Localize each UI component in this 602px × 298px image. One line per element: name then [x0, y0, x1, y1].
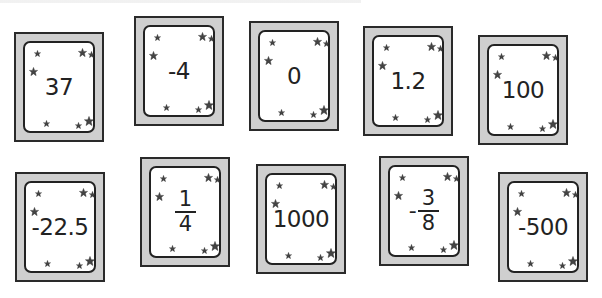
star-icon: [276, 182, 283, 189]
card-panel: -22.5: [24, 181, 96, 273]
star-icon: [394, 191, 403, 200]
number-card-5[interactable]: 100: [478, 35, 568, 145]
star-icon: [204, 100, 214, 110]
fraction-numerator: 1: [175, 189, 196, 213]
star-icon: [437, 45, 444, 52]
star-icon: [383, 44, 390, 51]
number-card-1[interactable]: 37: [14, 32, 104, 142]
star-icon: [160, 175, 167, 182]
card-value: -4: [145, 60, 213, 83]
star-icon: [559, 262, 566, 269]
star-icon: [326, 248, 336, 258]
star-icon: [572, 191, 579, 198]
star-icon: [84, 116, 94, 126]
fraction: 1 4: [175, 189, 196, 235]
star-icon: [330, 183, 337, 190]
fraction-sign: -: [409, 200, 417, 222]
star-icon: [88, 51, 95, 58]
star-icon: [285, 252, 292, 259]
star-icon: [562, 188, 571, 197]
card-panel: 1.2: [372, 35, 444, 127]
star-icon: [198, 32, 207, 41]
star-icon: [552, 54, 559, 61]
fraction-numerator: 3: [418, 188, 439, 212]
star-icon: [507, 123, 514, 130]
card-panel: -4: [143, 25, 215, 117]
card-value: -500: [509, 216, 577, 239]
star-icon: [29, 67, 38, 76]
star-icon: [30, 207, 39, 216]
cropped-header-strip: [0, 0, 602, 3]
card-value: 37: [25, 76, 93, 99]
star-icon: [539, 125, 546, 132]
star-icon: [149, 51, 158, 60]
star-icon: [399, 174, 406, 181]
star-icon: [433, 110, 443, 120]
star-icon: [513, 207, 522, 216]
card-panel: 100: [487, 44, 559, 136]
card-panel: - 3 8: [388, 165, 460, 257]
star-icon: [35, 190, 42, 197]
star-icon: [154, 34, 161, 41]
star-icon: [317, 254, 324, 261]
star-icon: [278, 109, 285, 116]
star-icon: [201, 247, 208, 254]
star-icon: [44, 260, 51, 267]
star-icon: [79, 188, 88, 197]
fraction: 3 8: [418, 188, 439, 234]
number-card-2[interactable]: -4: [134, 16, 224, 126]
star-icon: [75, 122, 82, 129]
star-icon: [210, 241, 220, 251]
number-card-6[interactable]: -22.5: [15, 172, 105, 282]
star-icon: [449, 240, 459, 250]
star-icon: [169, 245, 176, 252]
star-icon: [323, 40, 330, 47]
card-panel: 37: [23, 41, 95, 133]
star-icon: [78, 48, 87, 57]
star-icon: [319, 105, 329, 115]
number-card-4[interactable]: 1.2: [363, 26, 453, 136]
fraction-denominator: 8: [422, 212, 435, 234]
star-icon: [392, 114, 399, 121]
star-icon: [440, 246, 447, 253]
star-icon: [163, 104, 170, 111]
star-icon: [85, 256, 95, 266]
star-icon: [264, 56, 273, 65]
star-icon: [453, 175, 460, 182]
star-icon: [34, 50, 41, 57]
number-card-7[interactable]: 1 4: [140, 157, 230, 267]
star-icon: [43, 120, 50, 127]
star-icon: [204, 173, 213, 182]
star-icon: [493, 70, 502, 79]
star-icon: [269, 39, 276, 46]
star-icon: [378, 61, 387, 70]
star-icon: [427, 42, 436, 51]
star-icon: [542, 51, 551, 60]
star-icon: [498, 53, 505, 60]
star-icon: [76, 262, 83, 269]
star-icon: [271, 199, 280, 208]
card-panel: 0: [258, 30, 330, 122]
star-icon: [527, 260, 534, 267]
card-value: 1000: [267, 208, 335, 231]
star-icon: [310, 111, 317, 118]
card-value: 1.2: [374, 70, 442, 93]
number-card-8[interactable]: 1000: [256, 164, 346, 274]
fraction-denominator: 4: [179, 213, 192, 235]
star-icon: [568, 256, 578, 266]
card-value: 100: [489, 79, 557, 102]
number-card-9[interactable]: - 3 8: [379, 156, 469, 266]
star-icon: [195, 106, 202, 113]
number-card-10[interactable]: -500: [498, 172, 588, 282]
card-panel: -500: [507, 181, 579, 273]
star-icon: [320, 180, 329, 189]
star-icon: [548, 119, 558, 129]
number-card-3[interactable]: 0: [249, 21, 339, 131]
card-panel: 1000: [265, 173, 337, 265]
star-icon: [155, 192, 164, 201]
star-icon: [518, 190, 525, 197]
star-icon: [424, 116, 431, 123]
star-icon: [443, 172, 452, 181]
star-icon: [208, 35, 215, 42]
star-icon: [408, 244, 415, 251]
